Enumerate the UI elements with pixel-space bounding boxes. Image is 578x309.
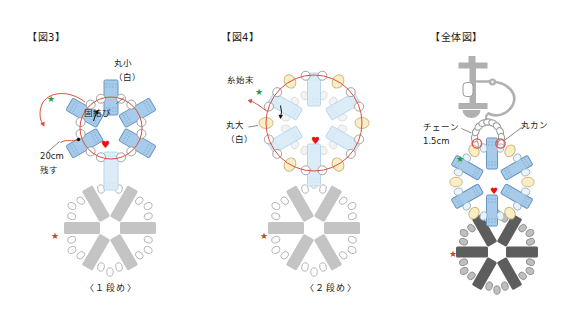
round-bead	[279, 250, 290, 260]
round-bead	[525, 228, 535, 238]
round-bead	[134, 196, 145, 206]
fig4-caption: 〈２段め〉	[299, 281, 363, 295]
bugle-bead	[82, 234, 110, 271]
bugle-bead	[286, 234, 314, 271]
overall-diagram	[450, 56, 538, 294]
round-bead	[347, 235, 357, 244]
fig4-diagram	[248, 71, 370, 276]
bugle-bead	[286, 185, 314, 222]
large-round-bead	[522, 177, 534, 187]
round-bead	[501, 281, 509, 291]
bugle-bead	[324, 222, 360, 234]
round-bead	[75, 250, 86, 260]
fig3-caption: 〈１段め〉	[79, 281, 143, 295]
round-bead	[143, 245, 153, 255]
round-bead	[134, 250, 145, 260]
overall-green-star: ★	[456, 155, 464, 164]
round-bead	[459, 228, 469, 238]
round-bead	[143, 212, 153, 221]
fig4-heart-marker: ♥	[311, 136, 320, 146]
fig3-row1-star: ★	[51, 232, 59, 241]
bugle-bead	[110, 185, 138, 222]
round-bead	[271, 212, 281, 221]
fig4-thread-end-label: 糸始末	[227, 74, 254, 88]
round-bead	[311, 268, 317, 276]
diagram-canvas	[0, 0, 578, 309]
bugle-bead	[487, 195, 498, 226]
round-bead	[526, 258, 536, 267]
round-bead	[67, 245, 77, 255]
round-bead	[271, 245, 281, 255]
round-bead	[459, 258, 469, 267]
clip-wire	[477, 82, 514, 116]
round-bead	[97, 262, 105, 272]
round-bead	[338, 250, 349, 260]
bugle-bead	[110, 234, 138, 271]
bugle-bead	[506, 247, 538, 258]
fig4-row1-flower	[268, 180, 360, 276]
bugle-bead	[314, 234, 342, 271]
round-bead	[115, 262, 123, 272]
round-bead	[338, 196, 349, 206]
round-bead	[75, 196, 86, 206]
round-bead	[143, 201, 153, 211]
large-round-bead	[450, 177, 462, 187]
round-bead	[347, 212, 357, 221]
beading-instruction-sheet: 【図3】 丸小 （白） 固結び 20cm 残す 〈１段め〉 ★ ♥ ★ 【図4】…	[0, 0, 578, 309]
fig3-knot-label: 固結び	[84, 107, 111, 121]
round-bead	[301, 262, 309, 272]
round-bead	[319, 262, 327, 272]
arrowhead	[40, 121, 44, 126]
label-pointer-line	[462, 129, 472, 134]
bugle-bead	[104, 152, 118, 190]
round-bead	[459, 237, 469, 246]
round-bead	[525, 266, 535, 276]
bugle-bead	[308, 144, 321, 186]
round-bead	[526, 237, 536, 246]
bugle-bead	[472, 257, 498, 290]
bugle-bead	[120, 222, 156, 234]
fig3-heart-marker: ♥	[101, 140, 110, 150]
overall-chain-label: チェーン 1.5cm	[423, 121, 459, 148]
fig3-thread-start-star: ★	[47, 95, 55, 104]
bugle-bead	[64, 222, 100, 234]
fig3-row1-flower	[64, 180, 156, 276]
label-pointer-line	[505, 128, 522, 141]
overall-title: 【全体図】	[430, 30, 483, 46]
fig3-title: 【図3】	[27, 30, 65, 46]
round-bead	[107, 268, 113, 276]
round-bead	[271, 235, 281, 244]
round-bead	[67, 212, 77, 221]
fig4-row2-star: ★	[260, 232, 268, 241]
knot-dot	[77, 138, 80, 141]
bugle-bead	[268, 222, 304, 234]
overall-jump-ring-label: 丸カン	[521, 119, 548, 133]
overall-row2-flower	[450, 138, 534, 226]
clip-pad	[463, 83, 473, 97]
bugle-bead	[82, 185, 110, 222]
round-bead	[347, 245, 357, 255]
overall-red-star: ★	[449, 250, 457, 259]
round-bead	[347, 201, 357, 211]
fig3-tail-label: 20cm 残す	[40, 150, 64, 177]
arrowhead	[248, 99, 253, 104]
round-bead	[494, 286, 500, 294]
fig3-bead-label: 丸小 （白）	[114, 57, 141, 84]
fig4-title: 【図4】	[221, 30, 259, 46]
round-bead	[67, 235, 77, 244]
round-bead	[279, 196, 290, 206]
round-bead	[485, 281, 493, 291]
round-bead	[67, 201, 77, 211]
overall-heart-marker: ♥	[490, 187, 498, 196]
thread-end-tail	[249, 101, 267, 112]
fig4-bead-label: 丸大 （白）	[226, 119, 253, 146]
round-bead	[459, 266, 469, 276]
bugle-bead	[497, 257, 523, 290]
round-bead	[271, 201, 281, 211]
bugle-bead	[314, 185, 342, 222]
earring-clip	[459, 56, 515, 121]
fig4-thread-start-star: ★	[255, 88, 263, 97]
round-bead	[143, 235, 153, 244]
bugle-bead	[456, 247, 488, 258]
